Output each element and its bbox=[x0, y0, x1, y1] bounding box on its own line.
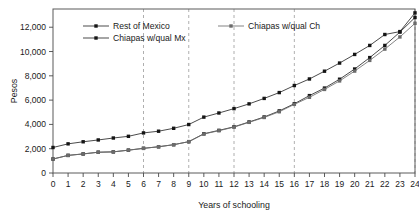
data-point bbox=[353, 69, 356, 72]
legend-swatch-marker bbox=[229, 24, 232, 27]
data-point bbox=[172, 127, 175, 130]
data-point bbox=[172, 143, 175, 146]
data-point bbox=[368, 44, 371, 47]
legend-label: Chiapas w/qual Ch bbox=[248, 21, 320, 31]
line-chart: 02,0004,0006,0008,00010,00012,000 012345… bbox=[0, 0, 419, 217]
legend-swatch-marker bbox=[94, 36, 97, 39]
y-axis-ticks: 02,0004,0006,0008,00010,00012,000 bbox=[20, 22, 53, 178]
chart-legend: Rest of MexicoChiapas w/qual ChChiapas w… bbox=[83, 21, 320, 43]
x-tick-label: 22 bbox=[380, 179, 390, 189]
data-point bbox=[127, 148, 130, 151]
data-point bbox=[413, 11, 416, 14]
data-point bbox=[202, 115, 205, 118]
chart-container: 02,0004,0006,0008,00010,00012,000 012345… bbox=[0, 0, 419, 217]
x-tick-label: 4 bbox=[111, 179, 116, 189]
data-point bbox=[66, 142, 69, 145]
data-point bbox=[51, 146, 54, 149]
data-point bbox=[157, 145, 160, 148]
data-point bbox=[97, 151, 100, 154]
y-tick-label: 6,000 bbox=[25, 95, 47, 105]
data-point bbox=[142, 131, 145, 134]
x-tick-label: 1 bbox=[66, 179, 71, 189]
x-tick-label: 5 bbox=[126, 179, 131, 189]
x-axis-title: Years of schooling bbox=[198, 200, 270, 210]
data-point bbox=[383, 44, 386, 47]
data-point bbox=[383, 33, 386, 36]
x-tick-label: 7 bbox=[156, 179, 161, 189]
x-tick-label: 13 bbox=[244, 179, 254, 189]
x-tick-label: 3 bbox=[96, 179, 101, 189]
x-tick-label: 24 bbox=[410, 179, 419, 189]
data-point bbox=[247, 121, 250, 124]
data-point bbox=[217, 111, 220, 114]
data-point bbox=[338, 79, 341, 82]
x-tick-label: 16 bbox=[290, 179, 300, 189]
data-point bbox=[232, 125, 235, 128]
x-tick-label: 2 bbox=[81, 179, 86, 189]
legend-label: Rest of Mexico bbox=[113, 21, 170, 31]
data-point bbox=[308, 77, 311, 80]
data-point bbox=[368, 59, 371, 62]
data-point bbox=[278, 91, 281, 94]
x-tick-label: 14 bbox=[259, 179, 269, 189]
x-axis-ticks: 0123456789101112131415161718192021222324 bbox=[51, 173, 419, 189]
x-tick-label: 6 bbox=[141, 179, 146, 189]
x-tick-label: 11 bbox=[215, 179, 224, 189]
y-tick-label: 4,000 bbox=[25, 119, 47, 129]
x-tick-label: 0 bbox=[51, 179, 56, 189]
data-point bbox=[66, 154, 69, 157]
x-tick-label: 19 bbox=[335, 179, 345, 189]
data-point bbox=[413, 16, 416, 19]
data-point bbox=[187, 140, 190, 143]
data-point bbox=[142, 147, 145, 150]
x-tick-label: 15 bbox=[275, 179, 285, 189]
x-tick-label: 9 bbox=[186, 179, 191, 189]
x-tick-label: 18 bbox=[320, 179, 330, 189]
data-point bbox=[232, 107, 235, 110]
y-tick-label: 8,000 bbox=[25, 71, 47, 81]
data-point bbox=[308, 96, 311, 99]
data-point bbox=[398, 30, 401, 33]
data-point bbox=[217, 129, 220, 132]
data-point bbox=[323, 88, 326, 91]
data-point bbox=[247, 102, 250, 105]
data-point bbox=[127, 135, 130, 138]
data-point bbox=[278, 110, 281, 113]
y-tick-label: 0 bbox=[41, 168, 46, 178]
data-point bbox=[293, 103, 296, 106]
data-point bbox=[413, 22, 416, 25]
data-point bbox=[187, 123, 190, 126]
data-point bbox=[97, 138, 100, 141]
y-tick-label: 12,000 bbox=[20, 22, 46, 32]
x-tick-label: 21 bbox=[365, 179, 375, 189]
x-tick-label: 12 bbox=[229, 179, 239, 189]
data-point bbox=[202, 132, 205, 135]
data-point bbox=[51, 157, 54, 160]
data-point bbox=[157, 130, 160, 133]
data-point bbox=[383, 47, 386, 50]
data-point bbox=[112, 136, 115, 139]
legend-swatch-marker bbox=[94, 24, 97, 27]
data-point bbox=[81, 140, 84, 143]
y-tick-label: 10,000 bbox=[20, 47, 46, 57]
data-point bbox=[398, 35, 401, 38]
data-point bbox=[353, 53, 356, 56]
x-tick-label: 20 bbox=[350, 179, 360, 189]
legend-label: Chiapas w/qual Mx bbox=[113, 33, 186, 43]
data-point bbox=[81, 152, 84, 155]
y-tick-label: 2,000 bbox=[25, 144, 47, 154]
data-point bbox=[112, 150, 115, 153]
data-point bbox=[262, 97, 265, 100]
data-point bbox=[262, 116, 265, 119]
x-tick-label: 17 bbox=[305, 179, 315, 189]
data-point bbox=[293, 84, 296, 87]
y-axis-title: Pesos bbox=[9, 78, 19, 103]
data-point bbox=[338, 61, 341, 64]
x-tick-label: 10 bbox=[199, 179, 209, 189]
data-point bbox=[323, 69, 326, 72]
x-tick-label: 23 bbox=[395, 179, 405, 189]
x-tick-label: 8 bbox=[171, 179, 176, 189]
